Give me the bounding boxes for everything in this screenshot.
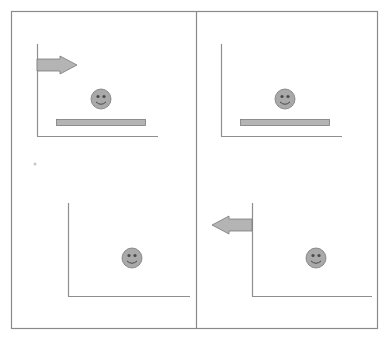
face-circle xyxy=(275,89,295,109)
panel-frame xyxy=(12,11,378,329)
right-eye xyxy=(102,95,105,98)
face-circle xyxy=(306,248,326,268)
stray-dot xyxy=(34,163,37,166)
arrow-left-icon xyxy=(212,216,252,234)
smiley-face-icon xyxy=(122,248,142,268)
face-circle xyxy=(122,248,142,268)
platform-bar xyxy=(57,120,146,126)
left-eye xyxy=(280,95,283,98)
smiley-face-icon xyxy=(275,89,295,109)
right-eye xyxy=(133,254,136,257)
left-eye xyxy=(96,95,99,98)
right-eye xyxy=(286,95,289,98)
smiley-face-icon xyxy=(306,248,326,268)
panel-bottom-left xyxy=(68,203,190,297)
right-eye xyxy=(317,254,320,257)
panel-top-right xyxy=(221,44,342,137)
arrow-right-icon xyxy=(37,56,77,74)
face-circle xyxy=(91,89,111,109)
panel-bottom-right xyxy=(212,203,372,297)
platform-bar xyxy=(241,120,330,126)
left-eye xyxy=(311,254,314,257)
diagram-canvas xyxy=(0,0,389,340)
smiley-face-icon xyxy=(91,89,111,109)
left-eye xyxy=(127,254,130,257)
panels xyxy=(34,44,373,297)
panel-top-left xyxy=(37,44,158,137)
